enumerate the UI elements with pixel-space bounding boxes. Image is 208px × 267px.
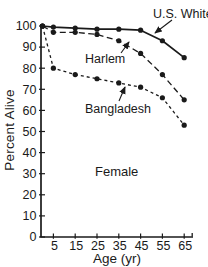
y-tick-label: 100 [16, 19, 37, 33]
plot-area: 01020304050607080901005152535455565 [0, 0, 208, 267]
y-tick-label: 80 [23, 62, 37, 76]
annotation-arrow-u-s-white [155, 20, 172, 33]
series-label-us-white: U.S. White [153, 8, 208, 21]
data-point-harlem [182, 97, 187, 102]
y-tick-label: 30 [23, 167, 37, 181]
y-tick-label: 0 [30, 230, 37, 244]
data-point-bangladesh [73, 72, 78, 77]
data-point-u-s-white [51, 24, 56, 29]
y-tick-label: 10 [23, 209, 37, 223]
y-tick-label: 90 [23, 40, 37, 54]
y-tick-label: 20 [23, 188, 37, 202]
data-point-u-s-white [138, 28, 143, 33]
y-tick-label: 70 [23, 83, 37, 97]
data-point-bangladesh [160, 95, 165, 100]
data-point-u-s-white [160, 38, 165, 43]
data-point-u-s-white [116, 27, 121, 32]
data-point-bangladesh [116, 80, 121, 85]
data-point-bangladesh [182, 123, 187, 128]
y-tick-label: 50 [23, 125, 37, 139]
data-point-u-s-white [182, 55, 187, 60]
survival-chart-figure: Percent Alive 01020304050607080901005152… [0, 0, 208, 267]
data-point-harlem [138, 51, 143, 56]
data-point-harlem [94, 32, 99, 37]
data-point-harlem [160, 72, 165, 77]
data-point-bangladesh [94, 76, 99, 81]
y-tick-label: 60 [23, 104, 37, 118]
series-label-harlem: Harlem [85, 53, 125, 66]
data-point-bangladesh [40, 23, 45, 28]
data-point-harlem [73, 30, 78, 35]
annotation-arrow-bangladesh [119, 87, 125, 101]
x-axis-title: Age (yr) [41, 251, 193, 266]
y-tick-label: 40 [23, 146, 37, 160]
sex-group-label: Female [95, 165, 138, 178]
data-point-bangladesh [138, 85, 143, 90]
series-label-bangladesh: Bangladesh [85, 103, 151, 116]
data-point-harlem [116, 38, 121, 43]
data-point-bangladesh [51, 66, 56, 71]
data-point-harlem [51, 30, 56, 35]
data-point-u-s-white [94, 27, 99, 32]
